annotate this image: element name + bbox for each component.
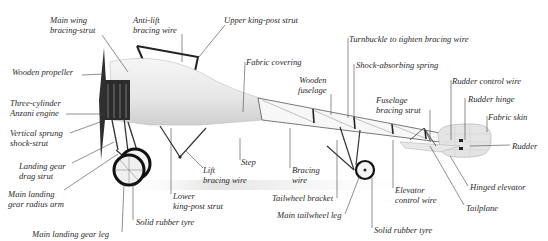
aircraft-diagram: Main wing bracing-strut Anti-lift bracin… (0, 0, 548, 241)
label-main-landing-gear-leg: Main landing gear leg (32, 229, 109, 239)
label-anti-lift-bracing-wire: Anti-lift bracing wire (133, 15, 177, 35)
propeller-shape (99, 48, 107, 160)
label-hinged-elevator: Hinged elevator (470, 182, 526, 192)
label-tailplane: Tailplane (466, 203, 498, 213)
label-fabric-skin: Fabric skin (488, 112, 527, 122)
forward-fuselage (110, 58, 262, 125)
label-upper-king-post-strut: Upper king-post strut (224, 15, 298, 25)
label-rudder: Rudder (512, 141, 537, 151)
label-main-wing-bracing-strut: Main wing bracing-strut (50, 15, 95, 35)
ground-shadow (120, 180, 440, 190)
label-landing-gear-drag-strut: Landing gear drag strut (19, 161, 66, 181)
label-wooden-fuselage: Wooden fuselage (298, 75, 327, 95)
label-solid-rubber-tyre-rear: Solid rubber tyre (374, 225, 432, 235)
label-turnbuckle: Turnbuckle to tighten bracing wire (349, 34, 469, 44)
label-bracing-wire: Bracing wire (292, 165, 320, 185)
label-three-cylinder-engine: Three-cylinder Anzani engine (10, 98, 61, 118)
label-main-tailwheel-leg: Main tailwheel leg (277, 210, 341, 220)
rudder-shape (438, 124, 491, 157)
label-elevator-control-wire: Elevator control wire (395, 185, 437, 205)
label-fuselage-bracing-strut: Fuselage bracing strut (376, 95, 421, 115)
label-lower-king-post-strut: Lower king-post strut (173, 191, 223, 211)
label-rudder-hinge: Rudder hinge (468, 94, 515, 104)
label-fabric-covering: Fabric covering (246, 57, 302, 67)
label-shock-absorbing-spring: Shock-absorbing spring (356, 60, 438, 70)
label-lift-bracing-wire: Lift bracing wire (203, 165, 247, 185)
label-vertical-sprung-shock-strut: Vertical sprung shock-strut (10, 128, 63, 148)
label-tailwheel-bracket: Tailwheel bracket (272, 193, 333, 203)
label-rudder-control-wire: Rudder control wire (452, 76, 521, 86)
label-wooden-propeller: Wooden propeller (12, 67, 73, 77)
label-main-landing-gear-radius-arm: Main landing gear radius arm (8, 189, 64, 209)
lower-king-post (160, 126, 206, 157)
label-solid-rubber-tyre-front: Solid rubber tyre (136, 217, 194, 227)
